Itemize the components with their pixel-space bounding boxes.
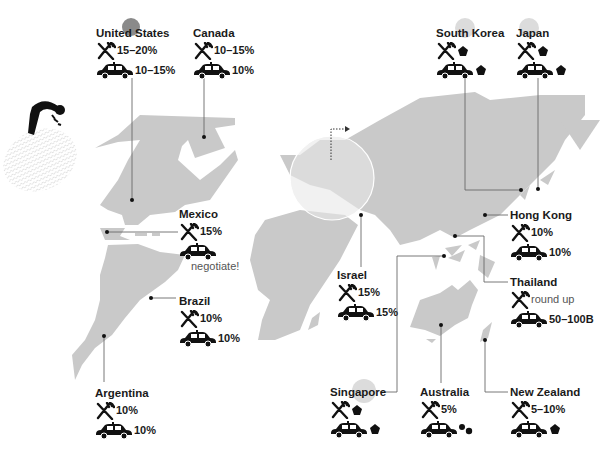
taxi-note: negotiate! [191, 261, 239, 272]
country-label-australia: Australia 5% [420, 387, 474, 438]
taxi-icon [330, 421, 368, 438]
country-label-thailand: Thailand round up 50–100B [510, 277, 594, 328]
country-label-israel: Israel 15% 15% [337, 270, 398, 321]
restaurant-tip: 10–15% [214, 45, 254, 56]
fork-knife-icon [510, 291, 530, 309]
fork-knife-icon [330, 401, 350, 419]
taxi-icon [193, 62, 231, 79]
taxi-icon [179, 243, 217, 260]
pentagon-coin-icon [556, 65, 566, 75]
taxi-tip: 10% [232, 65, 254, 76]
country-name: Canada [193, 28, 254, 40]
country-name: Hong Kong [510, 210, 572, 222]
taxi-tip: 50–100B [549, 314, 594, 325]
restaurant-tip: 15% [200, 226, 222, 237]
taxi-tip: 10% [134, 425, 156, 436]
country-name: Argentina [95, 388, 156, 400]
fork-knife-icon [179, 310, 199, 328]
taxi-icon [95, 422, 133, 439]
pentagon-coin-icon [370, 424, 380, 434]
restaurant-tip: 5% [441, 404, 457, 415]
country-name: Thailand [510, 277, 594, 289]
pentagon-coin-icon [476, 65, 486, 75]
restaurant-tip: 10% [116, 405, 138, 416]
fork-knife-icon [420, 401, 440, 419]
country-label-new-zealand: New Zealand 5–10% [510, 387, 580, 438]
coins-icon [458, 423, 474, 435]
fork-knife-icon [510, 401, 530, 419]
country-label-brazil: Brazil 10% 10% [179, 296, 240, 347]
pentagon-coin-icon [458, 46, 468, 56]
taxi-tip: 10–15% [135, 65, 175, 76]
fork-knife-icon [337, 284, 357, 302]
europe-zoom-lens [290, 136, 374, 220]
restaurant-tip: 5–10% [531, 404, 565, 415]
country-label-hong-kong: Hong Kong 10% 10% [510, 210, 572, 261]
fork-knife-icon [193, 42, 213, 60]
country-name: New Zealand [510, 387, 580, 399]
fork-knife-icon [95, 402, 115, 420]
taxi-icon [510, 244, 548, 261]
fork-knife-icon [510, 224, 530, 242]
country-name: South Korea [436, 28, 504, 40]
pentagon-coin-icon [538, 46, 548, 56]
taxi-icon [96, 62, 134, 79]
restaurant-tip: round up [531, 294, 574, 305]
pentagon-coin-icon [352, 405, 362, 415]
country-name: Japan [516, 28, 566, 40]
fork-knife-icon [96, 42, 116, 60]
taxi-icon [436, 62, 474, 79]
fingerprint-icon [0, 117, 87, 203]
taxi-icon [179, 330, 217, 347]
restaurant-tip: 10% [200, 313, 222, 324]
pentagon-coin-icon [550, 424, 560, 434]
taxi-icon [510, 421, 548, 438]
taxi-tip: 10% [549, 247, 571, 258]
country-name: Israel [337, 270, 398, 282]
taxi-icon [510, 311, 548, 328]
taxi-icon [516, 62, 554, 79]
taxi-tip: 10% [218, 333, 240, 344]
landmass-south-america [72, 244, 185, 380]
fork-knife-icon [179, 223, 199, 241]
country-name: Australia [420, 387, 474, 399]
taxi-icon [337, 304, 375, 321]
country-name: Brazil [179, 296, 240, 308]
country-label-singapore: Singapore [330, 387, 386, 438]
country-label-argentina: Argentina 10% 10% [95, 388, 156, 439]
country-label-mexico: Mexico 15% negotiate! [179, 209, 239, 272]
fork-knife-icon [516, 42, 536, 60]
restaurant-tip: 15% [358, 287, 380, 298]
country-label-canada: Canada 10–15% 10% [193, 28, 254, 79]
country-label-south-korea: South Korea [436, 28, 504, 79]
fork-knife-icon [436, 42, 456, 60]
taxi-tip: 15% [376, 307, 398, 318]
country-name: United States [96, 28, 175, 40]
country-name: Singapore [330, 387, 386, 399]
country-label-united-states: United States 15–20% 10–15% [96, 28, 175, 79]
restaurant-tip: 15–20% [117, 45, 157, 56]
restaurant-tip: 10% [531, 227, 553, 238]
country-name: Mexico [179, 209, 239, 221]
taxi-icon [420, 421, 458, 438]
landmass-australia [410, 280, 492, 343]
country-label-japan: Japan [516, 28, 566, 79]
